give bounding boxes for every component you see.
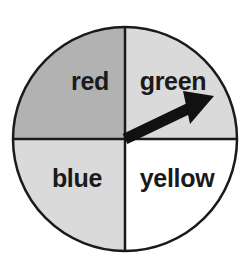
sector-blue[interactable]: [13, 139, 125, 251]
spinner-figure: red green blue yellow: [0, 0, 247, 264]
sector-label-blue: blue: [52, 164, 103, 192]
sector-yellow[interactable]: [125, 139, 237, 251]
sector-label-red: red: [71, 67, 109, 95]
sector-label-green: green: [140, 67, 207, 95]
spinner-wheel-graphic: red green blue yellow: [0, 0, 247, 264]
sector-label-yellow: yellow: [140, 164, 215, 192]
